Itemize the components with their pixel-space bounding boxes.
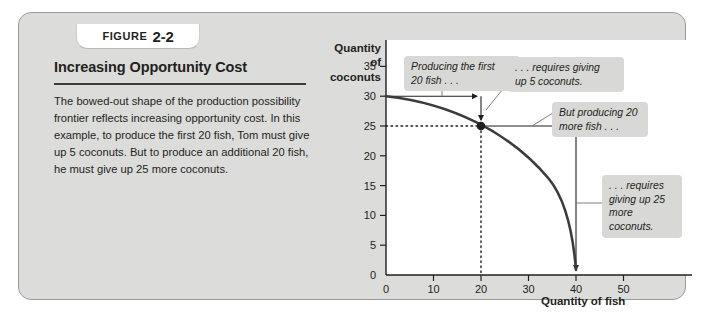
x-tick-50: 50 (617, 283, 629, 295)
figure-screenshot: FIGURE 2-2 Increasing Opportunity Cost T… (0, 0, 717, 320)
x-tick-30: 30 (522, 283, 534, 295)
callout-producing-first-20-fish: Producing the first 20 fish . . . (404, 56, 520, 91)
caption-divider (54, 83, 306, 85)
x-tick-10: 10 (427, 283, 439, 295)
y-axis-ticks: 0 5 10 15 20 25 30 35 (364, 60, 386, 281)
y-tick-0: 0 (370, 269, 376, 281)
figure-caption-text: The bowed-out shape of the production po… (54, 93, 312, 178)
y-tick-10: 10 (364, 209, 376, 221)
y-tick-25: 25 (364, 120, 376, 132)
y-tick-30: 30 (364, 90, 376, 102)
figure-card: FIGURE 2-2 Increasing Opportunity Cost T… (18, 12, 686, 300)
caption-column: Increasing Opportunity Cost The bowed-ou… (54, 59, 339, 178)
callout-requires-giving-up-25-more-coconuts: . . . requires giving up 25 more coconut… (602, 175, 682, 238)
y-tick-35: 35 (364, 60, 376, 72)
point-a-marker (477, 122, 486, 131)
x-axis-ticks: 0 10 20 30 40 50 (383, 275, 630, 295)
x-tick-0: 0 (383, 283, 389, 295)
y-tick-5: 5 (370, 239, 376, 251)
x-tick-20: 20 (475, 283, 487, 295)
figure-number-tab: FIGURE 2-2 (76, 24, 200, 49)
figure-title: Increasing Opportunity Cost (54, 59, 339, 76)
y-tick-15: 15 (364, 180, 376, 192)
callout-but-producing-20-more-fish: But producing 20 more fish . . . (552, 102, 648, 137)
guide-lines (386, 126, 481, 275)
x-tick-40: 40 (570, 283, 582, 295)
callout-requires-giving-up-5-coconuts: . . . requires giving up 5 coconuts. (508, 57, 624, 92)
figure-label: FIGURE (102, 30, 147, 42)
figure-number: 2-2 (153, 28, 174, 45)
y-tick-20: 20 (364, 150, 376, 162)
